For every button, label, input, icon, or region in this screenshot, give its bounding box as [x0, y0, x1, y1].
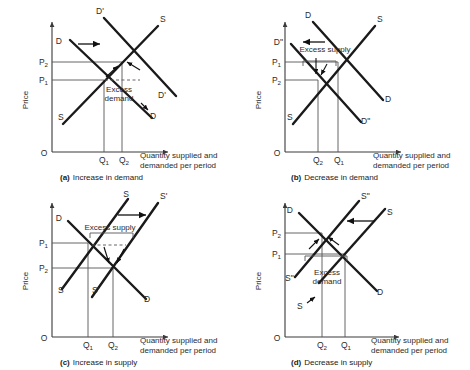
panel-d-y-axis-label: Price: [254, 271, 263, 290]
panel-b-label-d-original-right: D: [385, 94, 391, 104]
panel-b-x-axis-label-line1: Quantity supplied and: [373, 151, 450, 160]
panel-b-y-axis-label: Price: [254, 90, 263, 109]
panel-c-label-d-top: D: [56, 213, 62, 223]
panel-d-x-axis-label-line2: demanded per period: [371, 346, 447, 355]
panel-d-label-s-original-bottom: S: [297, 301, 303, 311]
panel-c-adjust-arrow-right: [117, 249, 124, 263]
panel-c-label-s-original-bottom: S: [58, 285, 64, 295]
panel-b-caption: (b)Decrease in demand: [291, 173, 378, 182]
panel-a-note-line2: demand: [105, 94, 134, 103]
panel-b-note-line1: Excess supply: [299, 45, 350, 54]
panel-b-price-low-label: P2: [272, 75, 282, 86]
panel-c-label-d-bottom: D: [144, 294, 150, 304]
panel-c-excess-supply-brace: [90, 233, 133, 238]
panel-c-x-axis-label-line2: demanded per period: [140, 346, 216, 355]
panel-c-label-s-original-top: S: [123, 189, 129, 199]
panel-c-price-low-label: P2: [39, 263, 49, 274]
panel-d-decrease-in-supply: S" S D S" S D P2 P1 Q2 Q1 O Excess deman…: [235, 185, 470, 370]
panel-c-caption: (c)Increase in supply: [60, 358, 137, 367]
panel-a-increase-in-demand: D' S D D' D S P2 P1 Q1 Q2 O Excess deman…: [0, 0, 235, 185]
panel-b-origin-label: O: [274, 148, 281, 158]
panel-d-quantity-left-label: Q2: [317, 340, 328, 351]
panel-c-quantity-right-label: Q2: [108, 340, 119, 351]
panel-a-price-low-label: P1: [39, 75, 49, 86]
panel-c-note-line1: Excess supply: [84, 223, 135, 232]
panel-d-price-high-label: P2: [272, 228, 282, 239]
panel-d-adjust-arrow-left: [309, 239, 319, 249]
economics-supply-demand-figure: D' S D D' D S P2 P1 Q1 Q2 O Excess deman…: [0, 0, 470, 370]
panel-b-label-d-shifted-low: D": [361, 116, 370, 126]
panel-a-label-d-original: D: [56, 36, 62, 46]
panel-b-decrease-in-demand: D S D" D D" S P1 P2 Q2 Q1 O Excess suppl…: [235, 0, 470, 185]
panel-b-quantity-right-label: Q1: [334, 155, 345, 166]
panel-a-quantity-left-label: Q1: [99, 155, 110, 166]
panel-a-adjust-arrow-right: [127, 62, 140, 70]
panel-d-label-s-shifted-bottom: S": [285, 273, 294, 283]
panel-a-x-axis-label-line2: demanded per period: [140, 161, 216, 170]
panel-a-label-s-bottom: S: [58, 112, 64, 122]
panel-d-label-d-bottom: D: [377, 287, 383, 297]
panel-a-adjust-arrow-left: [106, 66, 118, 77]
panel-a-label-d-shifted-top: D': [96, 6, 104, 16]
panel-b-label-d-original-top: D: [305, 10, 311, 20]
panel-c-price-high-label: P1: [39, 238, 49, 249]
panel-d-label-s-shifted-top: S": [361, 191, 370, 201]
panel-a-quantity-right-label: Q2: [119, 155, 130, 166]
panel-c-y-axis-label: Price: [21, 271, 30, 290]
panel-d-caption: (d)Decrease in supply: [291, 358, 372, 367]
panel-b-adjust-arrow-right: [321, 64, 327, 75]
panel-a-note-line1: Excess: [106, 85, 132, 94]
panel-a-caption: (a)Increase in demand: [60, 173, 143, 182]
panel-b-label-s-bottom: S: [287, 112, 293, 122]
panel-d-note-line1: Excess: [314, 268, 340, 277]
panel-a-label-s-top: S: [160, 14, 166, 24]
panel-d-note-line2: demand: [313, 277, 342, 286]
panel-d-label-s-original-top: S: [387, 207, 393, 217]
panel-b-x-axis-label-line2: demanded per period: [373, 161, 449, 170]
panel-a-label-d-shifted-right: D': [158, 90, 166, 100]
panel-a-price-high-label: P2: [39, 57, 49, 68]
panel-a-x-axis-label-line1: Quantity supplied and: [140, 151, 217, 160]
panel-b-quantity-left-label: Q2: [313, 155, 324, 166]
panel-d-quantity-right-label: Q1: [341, 340, 352, 351]
panel-c-increase-in-supply: S S' D S S' D P1 P2 Q1 Q2 O Excess suppl…: [0, 185, 235, 370]
panel-d-supply-leader: [307, 297, 315, 303]
panel-d-price-low-label: P1: [272, 249, 282, 260]
panel-b-label-s-top: S: [377, 14, 383, 24]
panel-b-supply-curve: [293, 26, 375, 124]
panel-c-origin-label: O: [41, 333, 48, 343]
panel-c-label-s-shifted-bottom: S': [92, 285, 100, 295]
panel-c-label-s-shifted-top: S': [160, 191, 168, 201]
panel-c-supply-curve-shifted: [92, 203, 158, 297]
panel-d-label-d-top: D: [287, 205, 293, 215]
panel-b-price-high-label: P1: [272, 57, 282, 68]
panel-a-origin-label: O: [41, 148, 48, 158]
panel-d-supply-curve-shifted: [295, 201, 359, 277]
panel-c-supply-curve-original: [62, 199, 128, 289]
panel-a-y-axis-label: Price: [21, 90, 30, 109]
panel-a-demand-curve-original: [70, 40, 152, 118]
panel-c-quantity-left-label: Q1: [83, 340, 94, 351]
panel-b-label-d-shifted: D": [274, 37, 283, 47]
panel-d-origin-label: O: [274, 333, 281, 343]
panel-d-x-axis-label-line1: Quantity supplied and: [371, 336, 448, 345]
panel-c-x-axis-label-line1: Quantity supplied and: [140, 336, 217, 345]
panel-a-label-d-original-low: D: [150, 111, 156, 121]
